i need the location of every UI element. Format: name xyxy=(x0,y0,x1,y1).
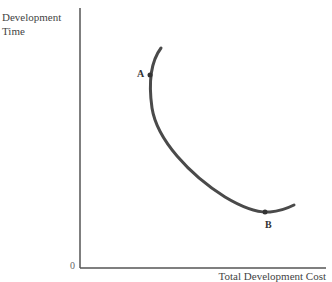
point-a-marker xyxy=(148,73,153,78)
origin-label: 0 xyxy=(70,260,75,271)
tradeoff-curve xyxy=(150,48,294,212)
x-axis-label: Total Development Cost xyxy=(219,270,326,282)
point-b-label: B xyxy=(265,219,272,230)
point-a-label: A xyxy=(137,68,144,79)
point-b-marker xyxy=(263,210,268,215)
